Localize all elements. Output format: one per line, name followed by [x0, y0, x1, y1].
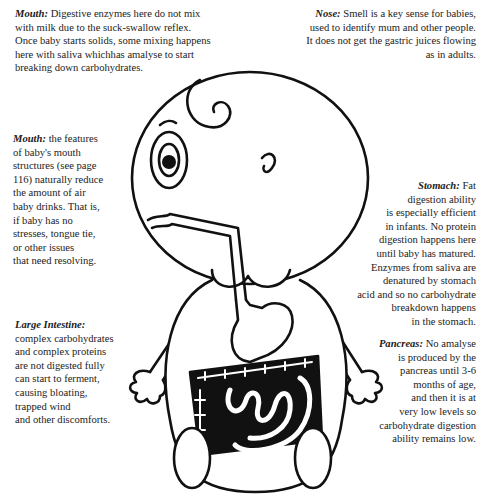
- note-stomach: Stomach: Fat digestion ability is especi…: [326, 179, 476, 329]
- note-mouth-digestive: Mouth: Digestive enzymes here do not mix…: [15, 7, 250, 75]
- note-line: is especially efficient: [386, 207, 476, 218]
- note-title: Mouth:: [13, 133, 46, 144]
- note-line: breaking down carbohydrates.: [15, 62, 143, 73]
- note-title: Large Intestine:: [15, 319, 85, 330]
- note-line: is produced by the: [398, 352, 476, 363]
- note-line: denatured by stomach: [383, 275, 476, 286]
- note-line: of baby's mouth: [13, 147, 81, 158]
- note-line: the amount of air: [13, 187, 86, 198]
- note-line: baby drinks. That is,: [13, 201, 100, 212]
- note-line: and complex proteins: [15, 346, 106, 357]
- note-title: Nose:: [315, 8, 340, 19]
- note-line: very low levels so: [399, 406, 476, 417]
- note-line: or other issues: [13, 242, 74, 253]
- note-line: No amalyse: [426, 338, 476, 349]
- note-line: complex carbohydrates: [15, 333, 114, 344]
- note-large-intestine: Large Intestine: complex carbohydrates a…: [15, 318, 150, 427]
- note-line: months of age,: [413, 379, 476, 390]
- note-line: digestion ability: [407, 194, 476, 205]
- note-nose: Nose: Smell is a key sense for babies, u…: [256, 7, 476, 61]
- note-line: Digestive enzymes here do not mix: [51, 8, 201, 19]
- note-title: Pancreas:: [379, 338, 423, 349]
- note-line: Smell is a key sense for babies,: [343, 8, 476, 19]
- note-line: with milk due to the suck-swallow reflex…: [15, 22, 191, 33]
- note-line: are not digested fully: [15, 360, 105, 371]
- note-line: pancreas until 3-6: [400, 365, 476, 376]
- note-line: acid and so no carbohydrate: [357, 289, 476, 300]
- note-line: breakdown happens: [392, 302, 476, 313]
- note-line: structures (see page: [13, 160, 97, 171]
- note-title: Mouth:: [15, 8, 48, 19]
- note-line: in the stomach.: [412, 316, 476, 327]
- note-line: the features: [49, 133, 98, 144]
- note-line: used to identify mum and other people.: [310, 22, 476, 33]
- left-foot: [174, 428, 210, 488]
- note-line: Enzymes from saliva are: [371, 262, 476, 273]
- note-mouth-structures: Mouth: the features of baby's mouth stru…: [13, 132, 138, 268]
- note-line: causing bloating,: [15, 387, 87, 398]
- note-line: Fat: [462, 180, 476, 191]
- note-line: as in adults.: [426, 49, 476, 60]
- right-foot: [295, 428, 331, 488]
- note-line: 116) naturally reduce: [13, 174, 103, 185]
- note-line: here with saliva whichhas amalyse to sta…: [15, 49, 194, 60]
- note-line: ability remains low.: [392, 433, 476, 444]
- note-line: carbohydrate digestion: [379, 420, 476, 431]
- note-line: digestion happens here: [379, 234, 476, 245]
- note-pancreas: Pancreas: No amalyse is produced by the …: [346, 337, 476, 446]
- note-line: that need resolving.: [13, 255, 96, 266]
- note-line: and other discomforts.: [15, 414, 110, 425]
- note-line: if baby has no: [13, 215, 73, 226]
- note-line: can start to ferment,: [15, 373, 100, 384]
- note-line: It does not get the gastric juices flowi…: [306, 35, 476, 46]
- note-line: stresses, tongue tie,: [13, 228, 95, 239]
- note-line: in infants. No protein: [385, 221, 476, 232]
- note-line: until baby has matured.: [377, 248, 476, 259]
- note-line: and then it is at: [411, 392, 476, 403]
- note-line: trapped wind: [15, 401, 71, 412]
- note-line: Once baby starts solids, some mixing hap…: [15, 35, 211, 46]
- note-title: Stomach:: [418, 180, 460, 191]
